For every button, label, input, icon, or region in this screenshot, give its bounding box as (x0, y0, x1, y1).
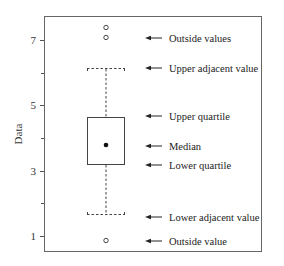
outlier-point (104, 35, 108, 39)
y-axis-label: Data (12, 124, 24, 145)
y-tick-7: 7 (31, 34, 37, 46)
y-tick-3: 3 (31, 165, 37, 177)
label-lower-adjacent-value: Lower adjacent value (169, 212, 260, 223)
outlier-point (104, 25, 108, 29)
interquartile-box (88, 118, 125, 165)
y-tick-1: 1 (31, 230, 37, 242)
label-outside-value: Outside value (169, 236, 227, 247)
label-outside-values: Outside values (169, 33, 231, 44)
outlier-point (104, 238, 108, 242)
label-upper-quartile: Upper quartile (169, 111, 230, 122)
label-lower-quartile: Lower quartile (169, 160, 231, 171)
y-tick-5: 5 (31, 99, 37, 111)
median-dot (104, 143, 109, 148)
boxplot-diagram: 7 5 3 1 Data Outside values Upper adjace… (0, 0, 284, 266)
y-axis-ticks (40, 41, 44, 237)
label-upper-adjacent-value: Upper adjacent value (169, 63, 259, 74)
label-median: Median (169, 141, 202, 152)
annotation-arrows (145, 36, 162, 243)
